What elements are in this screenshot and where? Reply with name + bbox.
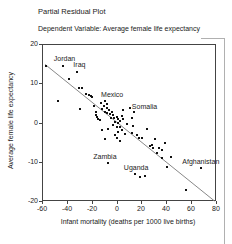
data-point bbox=[109, 113, 111, 115]
country-label-zambia: Zambia bbox=[93, 153, 116, 160]
data-point bbox=[121, 115, 123, 117]
data-point bbox=[95, 111, 97, 113]
y-tick-mark bbox=[39, 83, 42, 84]
data-point bbox=[122, 118, 124, 120]
data-point bbox=[101, 108, 103, 110]
y-tick-label: -10 bbox=[14, 158, 38, 165]
data-point bbox=[107, 128, 109, 130]
data-point bbox=[116, 137, 118, 139]
data-point bbox=[151, 144, 153, 146]
x-axis-title: Infant mortality (deaths per 1000 live b… bbox=[30, 218, 226, 225]
data-point bbox=[119, 120, 121, 122]
data-point bbox=[104, 138, 106, 140]
data-point bbox=[131, 132, 133, 134]
data-point bbox=[170, 156, 172, 158]
y-tick-mark bbox=[39, 44, 42, 45]
x-tick-label: 20 bbox=[129, 205, 153, 212]
x-tick-mark bbox=[42, 201, 43, 204]
data-point bbox=[78, 87, 80, 89]
data-point bbox=[133, 111, 135, 113]
data-point bbox=[99, 119, 101, 121]
data-point bbox=[96, 116, 98, 118]
y-axis-title: Average female life expectancy bbox=[7, 59, 14, 183]
x-tick-mark bbox=[67, 201, 68, 204]
x-tick-mark bbox=[92, 201, 93, 204]
data-point bbox=[112, 124, 114, 126]
y-tick-mark bbox=[39, 162, 42, 163]
data-point bbox=[114, 134, 116, 136]
data-point bbox=[134, 173, 136, 175]
data-point bbox=[154, 138, 156, 140]
y-tick-label: -20 bbox=[14, 197, 38, 204]
data-point bbox=[152, 147, 154, 149]
data-point bbox=[79, 108, 81, 110]
partial-residual-plot-screenshot: Partial Residual Plot Dependent Variable… bbox=[0, 0, 232, 244]
data-point bbox=[166, 166, 168, 168]
x-tick-label: -20 bbox=[80, 205, 104, 212]
x-tick-label: 0 bbox=[105, 205, 129, 212]
data-point bbox=[106, 103, 108, 105]
data-point bbox=[144, 175, 146, 177]
data-point bbox=[104, 100, 106, 102]
x-tick-mark bbox=[141, 201, 142, 204]
data-point bbox=[129, 107, 131, 109]
data-point bbox=[100, 102, 102, 104]
x-tick-mark bbox=[216, 201, 217, 204]
country-label-mexico: Mexico bbox=[101, 91, 123, 98]
data-point bbox=[161, 157, 163, 159]
chart-title: Partial Residual Plot bbox=[38, 7, 106, 16]
y-tick-mark bbox=[39, 123, 42, 124]
data-point bbox=[114, 121, 116, 123]
country-label-jordan: Jordan bbox=[54, 54, 75, 61]
data-point bbox=[111, 111, 113, 113]
x-tick-mark bbox=[166, 201, 167, 204]
data-point bbox=[156, 152, 158, 154]
data-point bbox=[45, 65, 47, 67]
x-tick-mark bbox=[191, 201, 192, 204]
data-point bbox=[146, 128, 148, 130]
data-point bbox=[139, 176, 141, 178]
data-point bbox=[122, 109, 124, 111]
y-tick-label: 0 bbox=[14, 119, 38, 126]
data-point bbox=[132, 125, 134, 127]
data-point bbox=[158, 147, 160, 149]
data-point bbox=[200, 167, 202, 169]
data-point bbox=[141, 137, 143, 139]
data-point bbox=[131, 117, 133, 119]
data-point bbox=[117, 131, 119, 133]
country-label-afghanistan: Afghanistan bbox=[182, 157, 219, 164]
y-tick-label: 20 bbox=[14, 40, 38, 47]
data-point bbox=[121, 129, 123, 131]
country-label-uganda: Uganda bbox=[124, 164, 149, 171]
data-point bbox=[110, 117, 112, 119]
data-point bbox=[57, 100, 59, 102]
data-point bbox=[91, 96, 93, 98]
country-label-somalia: Somalia bbox=[132, 102, 157, 109]
x-tick-label: 40 bbox=[154, 205, 178, 212]
data-point bbox=[68, 78, 70, 80]
x-tick-label: 80 bbox=[204, 205, 228, 212]
data-point bbox=[76, 71, 78, 73]
data-point bbox=[136, 134, 138, 136]
data-point bbox=[119, 140, 121, 142]
x-tick-label: -40 bbox=[55, 205, 79, 212]
x-tick-mark bbox=[117, 201, 118, 204]
data-point bbox=[126, 123, 128, 125]
data-point bbox=[93, 105, 95, 107]
data-point bbox=[81, 87, 83, 89]
country-label-iraq: Iraq bbox=[73, 61, 85, 68]
data-point bbox=[62, 65, 64, 67]
plot-area bbox=[42, 44, 216, 201]
data-point bbox=[116, 126, 118, 128]
data-point bbox=[161, 149, 163, 151]
data-point bbox=[108, 109, 110, 111]
window-frame-top-edge bbox=[201, 38, 225, 39]
data-point bbox=[185, 189, 187, 191]
data-point bbox=[112, 114, 114, 116]
data-point bbox=[164, 142, 166, 144]
data-point bbox=[101, 129, 103, 131]
x-tick-label: -60 bbox=[30, 205, 54, 212]
window-frame-right-edge bbox=[224, 38, 225, 244]
data-point bbox=[107, 162, 109, 164]
data-point bbox=[124, 133, 126, 135]
